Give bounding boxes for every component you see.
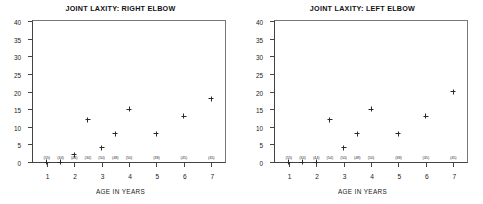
x-axis-title: AGE IN YEARS: [242, 188, 483, 195]
x-axis-tick: 2: [74, 162, 75, 167]
x-axis-tick-label: 4: [128, 173, 132, 180]
sample-size-label: (45): [423, 155, 430, 160]
y-axis-tick-label: 25: [14, 71, 21, 78]
data-point: [369, 107, 374, 112]
x-axis-tick: 6: [184, 162, 185, 167]
data-point: [113, 131, 118, 136]
data-point: [286, 160, 291, 165]
y-axis-tick-label: 40: [256, 19, 263, 26]
plot-frame: 05101520253035401234567(55)(34)(44)(54)(…: [274, 20, 468, 163]
x-axis-tick: 3: [344, 162, 345, 167]
plot-area: 05101520253035401234567(55)(34)(44)(34)(…: [33, 21, 225, 162]
x-axis-tick-label: 2: [73, 173, 77, 180]
chart-title: JOINT LAXITY: LEFT ELBOW: [242, 4, 483, 13]
x-axis-tick: 4: [371, 162, 372, 167]
sample-size-label: (38): [153, 155, 160, 160]
y-axis-tick-label: 5: [259, 142, 263, 149]
y-axis-tick: 15: [270, 109, 275, 110]
plot-frame: 05101520253035401234567(55)(34)(44)(34)(…: [32, 20, 226, 163]
x-axis-tick: 3: [102, 162, 103, 167]
chart-panel-left-elbow: JOINT LAXITY: LEFT ELBOW 051015202530354…: [242, 0, 483, 204]
y-axis-tick-label: 20: [256, 89, 263, 96]
data-point: [300, 160, 305, 165]
y-axis-tick-label: 35: [14, 36, 21, 43]
x-axis-tick-label: 6: [425, 173, 429, 180]
y-axis-tick: 20: [28, 92, 33, 93]
sample-size-label: (48): [354, 155, 361, 160]
y-axis-tick: 25: [28, 74, 33, 75]
sample-size-label: (45): [208, 155, 215, 160]
data-point: [85, 117, 90, 122]
chart-title: JOINT LAXITY: RIGHT ELBOW: [0, 4, 241, 13]
sample-size-label: (50): [126, 155, 133, 160]
data-point: [154, 131, 159, 136]
y-axis-tick: 10: [270, 127, 275, 128]
data-point: [58, 160, 63, 165]
plot-area: 05101520253035401234567(55)(34)(44)(54)(…: [275, 21, 467, 162]
y-axis-tick: 30: [270, 56, 275, 57]
y-axis-tick-label: 10: [256, 124, 263, 131]
x-axis-tick: 6: [426, 162, 427, 167]
sample-size-label: (50): [340, 155, 347, 160]
x-axis-tick-label: 3: [101, 173, 105, 180]
y-axis-tick: 40: [28, 21, 33, 22]
sample-size-label: (54): [327, 155, 334, 160]
y-axis-tick: 35: [270, 39, 275, 40]
y-axis-tick-label: 15: [256, 107, 263, 114]
y-axis-tick-label: 10: [14, 124, 21, 131]
x-axis-tick-label: 4: [370, 173, 374, 180]
data-point: [341, 145, 346, 150]
data-point: [99, 145, 104, 150]
sample-size-label: (50): [98, 155, 105, 160]
x-axis-tick-label: 1: [288, 173, 292, 180]
y-axis-tick: 35: [28, 39, 33, 40]
data-point: [127, 107, 132, 112]
y-axis-tick-label: 25: [256, 71, 263, 78]
sample-size-label: (45): [181, 155, 188, 160]
data-point: [181, 114, 186, 119]
y-axis-tick-label: 20: [14, 89, 21, 96]
sample-size-label: (48): [112, 155, 119, 160]
y-axis-tick-label: 40: [14, 19, 21, 26]
sample-size-label: (38): [395, 155, 402, 160]
y-axis-tick-label: 30: [256, 54, 263, 61]
x-axis-tick: 7: [453, 162, 454, 167]
x-axis-tick-label: 7: [452, 173, 456, 180]
x-axis-tick: 7: [211, 162, 212, 167]
sample-size-label: (50): [368, 155, 375, 160]
x-axis-tick-label: 6: [183, 173, 187, 180]
data-point: [327, 117, 332, 122]
y-axis-tick: 0: [28, 162, 33, 163]
chart-panel-right-elbow: JOINT LAXITY: RIGHT ELBOW 05101520253035…: [0, 0, 241, 204]
x-axis-tick-label: 7: [210, 173, 214, 180]
sample-size-label: (34): [85, 155, 92, 160]
x-axis-tick: 5: [156, 162, 157, 167]
y-axis-tick: 20: [270, 92, 275, 93]
y-axis-tick: 10: [28, 127, 33, 128]
data-point: [44, 160, 49, 165]
y-axis-tick-label: 0: [259, 160, 263, 167]
y-axis-tick: 30: [28, 56, 33, 57]
x-axis-tick-label: 2: [315, 173, 319, 180]
y-axis-tick: 40: [270, 21, 275, 22]
data-point: [451, 89, 456, 94]
data-point: [209, 96, 214, 101]
y-axis-tick: 5: [28, 144, 33, 145]
x-axis-tick-label: 3: [343, 173, 347, 180]
data-point: [314, 160, 319, 165]
y-axis-tick-label: 5: [17, 142, 21, 149]
data-point: [396, 131, 401, 136]
x-axis-tick-label: 5: [156, 173, 160, 180]
y-axis-tick: 15: [28, 109, 33, 110]
y-axis-tick-label: 15: [14, 107, 21, 114]
data-point: [355, 131, 360, 136]
x-axis-title: AGE IN YEARS: [0, 188, 241, 195]
y-axis-tick-label: 35: [256, 36, 263, 43]
figure-canvas: JOINT LAXITY: RIGHT ELBOW 05101520253035…: [0, 0, 483, 204]
sample-size-label: (45): [450, 155, 457, 160]
x-axis-tick: 5: [398, 162, 399, 167]
x-axis-tick-label: 5: [398, 173, 402, 180]
y-axis-tick: 25: [270, 74, 275, 75]
data-point: [423, 114, 428, 119]
y-axis-tick-label: 0: [17, 160, 21, 167]
